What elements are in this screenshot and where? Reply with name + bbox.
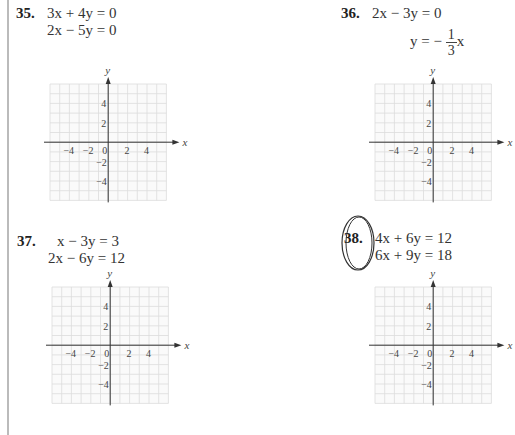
y-axis-arrow-icon	[431, 280, 436, 287]
x-axis-arrow-icon	[174, 343, 181, 348]
x-axis-arrow-icon	[172, 140, 179, 145]
x-tick-label: 0	[427, 348, 432, 359]
y-tick-label: 2	[426, 321, 431, 332]
x-tick-label: 2	[125, 145, 130, 156]
y-tick-label: −4	[421, 176, 432, 187]
problem-number: 35.	[16, 5, 35, 22]
y-axis-arrow-icon	[108, 280, 113, 287]
x-tick-label: 2	[127, 348, 132, 359]
x-tick-label: 4	[144, 145, 149, 156]
equation-1: x − 3y = 3	[57, 233, 119, 250]
x-tick-label: −2	[85, 348, 96, 359]
page-margin-rule	[7, 0, 9, 435]
y-tick-label: 2	[103, 321, 108, 332]
y-tick-label: 4	[426, 98, 431, 109]
x-axis-label: x	[181, 136, 187, 148]
coordinate-grid-35: xy−4−202442−2−4	[36, 70, 186, 215]
equation-2: 2x − 5y = 0	[47, 22, 116, 39]
x-axis-label: x	[506, 136, 512, 148]
x-tick-label: −2	[83, 145, 94, 156]
y-tick-label: 2	[101, 118, 106, 129]
x-tick-label: 0	[102, 145, 107, 156]
problem-number: 36.	[341, 5, 360, 22]
y-axis-label: y	[106, 267, 112, 279]
y-tick-label: −4	[96, 176, 107, 187]
x-tick-label: −4	[388, 145, 399, 156]
x-axis-arrow-icon	[497, 140, 504, 145]
equation-2: 2x − 6y = 12	[48, 250, 125, 267]
equation-1: 3x + 4y = 0	[47, 5, 116, 22]
y-axis-label: y	[429, 267, 435, 279]
equation-2: 6x + 9y = 18	[375, 247, 452, 264]
y-axis-arrow-icon	[106, 77, 111, 84]
y-tick-label: −4	[421, 379, 432, 390]
fraction: 13	[446, 27, 457, 58]
x-tick-label: 2	[450, 145, 455, 156]
problem-number: 37.	[17, 233, 36, 250]
y-tick-label: 4	[101, 98, 106, 109]
y-tick-label: 2	[426, 118, 431, 129]
x-tick-label: −4	[65, 348, 76, 359]
y-axis-arrow-icon	[431, 77, 436, 84]
x-tick-label: −2	[408, 348, 419, 359]
coordinate-grid-36: xy−4−202442−2−4	[361, 70, 511, 215]
y-axis-label: y	[104, 64, 110, 76]
equation-1: 4x + 6y = 12	[375, 230, 452, 247]
x-tick-label: 0	[104, 348, 109, 359]
y-tick-label: 4	[103, 301, 108, 312]
x-axis-label: x	[183, 339, 189, 351]
x-axis-arrow-icon	[497, 343, 504, 348]
y-tick-label: −2	[96, 157, 107, 168]
x-tick-label: 4	[469, 145, 474, 156]
x-tick-label: 2	[450, 348, 455, 359]
y-tick-label: 4	[426, 301, 431, 312]
y-tick-label: −2	[421, 360, 432, 371]
x-tick-label: −4	[388, 348, 399, 359]
equation-2: y = − 13x	[410, 22, 464, 60]
y-tick-label: −4	[98, 379, 109, 390]
coordinate-grid-38: xy−4−202442−2−4	[361, 273, 511, 418]
x-tick-label: 0	[427, 145, 432, 156]
x-tick-label: −2	[408, 145, 419, 156]
y-tick-label: −2	[98, 360, 109, 371]
x-axis-label: x	[506, 339, 512, 351]
equation-1: 2x − 3y = 0	[372, 5, 441, 22]
x-tick-label: 4	[469, 348, 474, 359]
x-tick-label: 4	[146, 348, 151, 359]
coordinate-grid-37: xy−4−202442−2−4	[38, 273, 188, 418]
problem-number: 38.	[344, 230, 363, 247]
x-tick-label: −4	[63, 145, 74, 156]
y-tick-label: −2	[421, 157, 432, 168]
y-axis-label: y	[429, 64, 435, 76]
